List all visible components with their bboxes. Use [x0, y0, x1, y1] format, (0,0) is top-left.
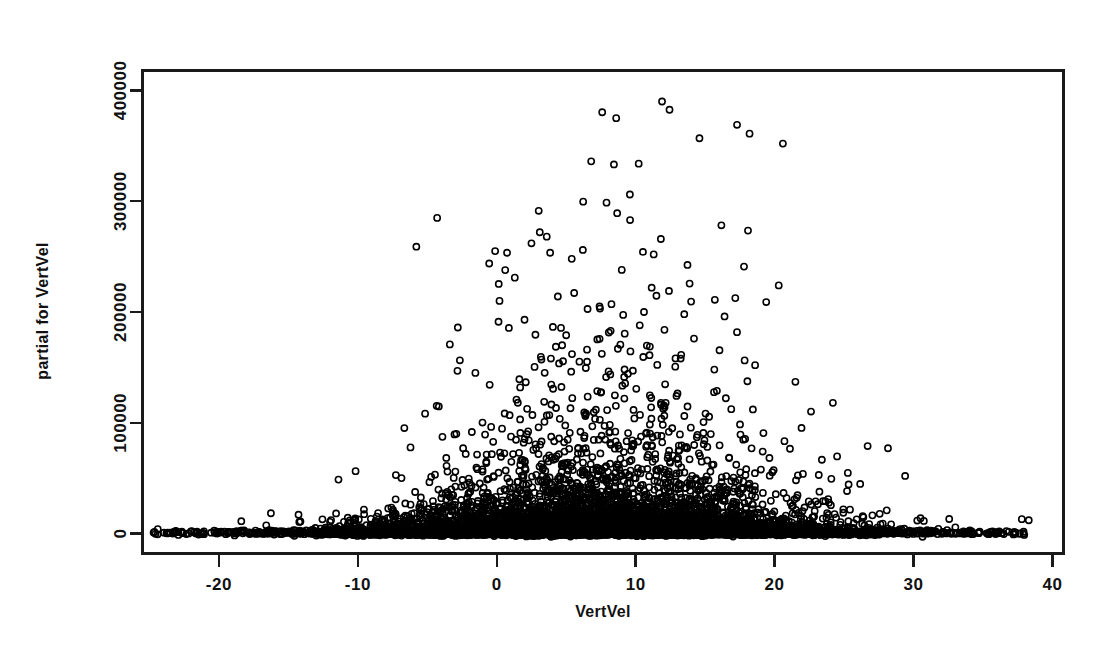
plot-canvas: -20-10010203040 010000020000030000040000… — [0, 0, 1116, 657]
x-tick-label: 40 — [1042, 575, 1062, 594]
y-tick-label: 300000 — [111, 171, 130, 231]
x-tick-label: -10 — [345, 575, 371, 594]
x-tick-label: 20 — [765, 575, 785, 594]
x-tick-label: 30 — [904, 575, 924, 594]
scatter-plot-figure: -20-10010203040 010000020000030000040000… — [0, 0, 1116, 657]
y-tick-label: 200000 — [111, 282, 130, 342]
x-tick-label: 0 — [492, 575, 502, 594]
x-tick-label: 10 — [626, 575, 646, 594]
x-tick-label: -20 — [206, 575, 232, 594]
y-tick-label: 400000 — [111, 61, 130, 121]
y-tick-label: 0 — [111, 529, 130, 539]
y-tick-label: 100000 — [111, 393, 130, 453]
x-axis-title: VertVel — [575, 603, 630, 620]
y-axis-title: partial for VertVel — [34, 242, 51, 379]
